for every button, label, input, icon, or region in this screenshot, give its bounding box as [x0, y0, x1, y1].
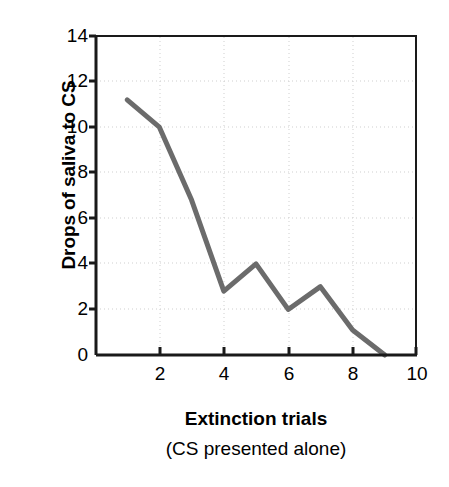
extinction-curve-figure: Drops of saliva to CS 14 12 10 8 6 4 2 0…: [0, 0, 449, 487]
x-axis-title: Extinction trials: [95, 408, 417, 430]
x-tick-label: 2: [155, 363, 166, 385]
x-axis-subtitle: (CS presented alone): [95, 438, 417, 460]
x-tick-label: 8: [348, 363, 359, 385]
x-tick-label: 6: [284, 363, 295, 385]
x-tick-label: 4: [219, 363, 230, 385]
x-tick-label: 10: [406, 363, 427, 385]
